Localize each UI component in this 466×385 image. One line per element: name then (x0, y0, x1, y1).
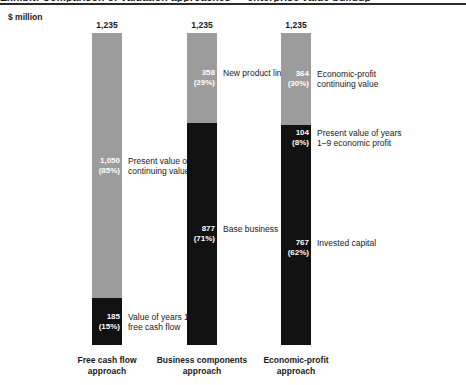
segment-value-label: 877(71%) (189, 224, 215, 243)
segment-value-label: 1,050(85%) (94, 156, 120, 175)
x-axis-category-label: Economic-profit approach (231, 355, 361, 376)
bar-total-label: 1,235 (266, 20, 326, 30)
bar-stack: 1,050(85%)Present value of continuing va… (92, 33, 122, 345)
segment-value: 877 (202, 224, 215, 233)
segment-value: 358 (202, 68, 215, 77)
chart-figure: Exhibit: Comparison of valuation approac… (0, 0, 466, 385)
bar-segment: 877(71%)Base business (187, 123, 217, 345)
segment-percent: (29%) (189, 78, 215, 88)
segment-value-label: 185(15%) (94, 312, 120, 331)
segment-callout-label: Present value of years 1–9 economic prof… (317, 128, 447, 148)
bar-total-label: 1,235 (77, 20, 137, 30)
segment-value: 185 (107, 312, 120, 321)
segment-callout-label: Invested capital (317, 238, 447, 248)
bar-stack: 358(29%)New product line877(71%)Base bus… (187, 33, 217, 345)
segment-callout-label: Economic-profit continuing value (317, 69, 447, 89)
figure-title: Exhibit: Comparison of valuation approac… (0, 0, 466, 2)
segment-value: 1,050 (100, 156, 120, 165)
title-rule (0, 3, 466, 5)
segment-value: 767 (296, 238, 309, 247)
segment-value-label: 358(29%) (189, 68, 215, 87)
segment-percent: (85%) (94, 166, 120, 176)
bar-total-label: 1,235 (172, 20, 232, 30)
segment-value: 104 (296, 128, 309, 137)
segment-value-label: 364(30%) (283, 69, 309, 88)
unit-label: $ million (8, 12, 42, 22)
bar-stack: 364(30%)Economic-profit continuing value… (281, 33, 311, 345)
segment-percent: (30%) (283, 79, 309, 89)
bar-segment: 358(29%)New product line (187, 33, 217, 123)
segment-value: 364 (296, 69, 309, 78)
segment-percent: (62%) (283, 248, 309, 258)
bar-segment: 104(8%)Present value of years 1–9 econom… (281, 125, 311, 151)
segment-percent: (71%) (189, 234, 215, 244)
segment-value-label: 767(62%) (283, 238, 309, 257)
bar-segment: 1,050(85%)Present value of continuing va… (92, 33, 122, 298)
bar-segment: 364(30%)Economic-profit continuing value (281, 33, 311, 125)
bar-segment: 185(15%)Value of years 1–9 free cash flo… (92, 298, 122, 345)
bar-segment: 767(62%)Invested capital (281, 151, 311, 345)
segment-value-label: 104(8%) (283, 128, 309, 147)
segment-percent: (8%) (283, 138, 309, 148)
segment-percent: (15%) (94, 322, 120, 332)
